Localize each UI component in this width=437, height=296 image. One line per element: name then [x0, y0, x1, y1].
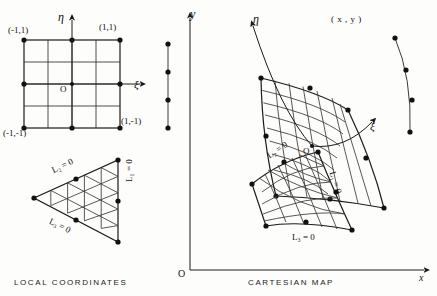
- label-origin-global: O: [178, 268, 185, 279]
- label-xi-local: ξ: [134, 78, 139, 90]
- label-y-axis: y: [190, 7, 195, 22]
- node: [165, 41, 170, 46]
- label-square-corner-bottom-left: (-1,-1): [3, 128, 26, 138]
- label-square-corner-top-right: (1,1): [99, 22, 116, 32]
- local-square-axes: [24, 20, 140, 128]
- origin-node: [70, 82, 74, 86]
- node: [249, 181, 254, 186]
- node: [303, 219, 308, 224]
- label-local-triangle-L1: L₁ = 0: [124, 159, 134, 182]
- label-origin-local-square: O: [60, 84, 67, 94]
- triangle-boundary: [34, 160, 118, 242]
- local-line-element: [165, 41, 170, 130]
- node: [258, 75, 263, 80]
- local-triangle-mesh: [34, 160, 118, 242]
- node: [407, 129, 412, 134]
- eta-axis-cartesian: [253, 26, 312, 146]
- node: [403, 67, 408, 72]
- label-square-corner-top-left: (-1,1): [8, 25, 28, 35]
- node: [31, 195, 36, 200]
- node: [21, 37, 26, 42]
- figure-canvas: (-1,1) (1,1) (-1,-1) (1,-1) η ξ O L₂ = 0…: [0, 0, 437, 296]
- label-xi-cartesian: ξ: [370, 120, 375, 132]
- node: [281, 159, 286, 164]
- caption-local-coordinates: LOCAL COORDINATES: [14, 278, 127, 287]
- node: [349, 227, 354, 232]
- node: [392, 35, 397, 40]
- figure-svg: [0, 0, 437, 296]
- label-eta-local: η: [58, 10, 64, 25]
- node: [263, 133, 268, 138]
- node: [165, 97, 170, 102]
- node: [327, 196, 332, 201]
- node: [73, 217, 78, 222]
- node: [263, 223, 268, 228]
- node: [115, 157, 120, 162]
- node: [73, 176, 78, 181]
- label-x-axis: x: [419, 272, 423, 283]
- node: [165, 69, 170, 74]
- node: [345, 107, 350, 112]
- cartesian-line-element: [392, 35, 414, 134]
- origin-node: [310, 144, 314, 148]
- node: [115, 198, 120, 203]
- label-point-xy: ( x , y ): [331, 14, 362, 24]
- node: [69, 37, 74, 42]
- node: [307, 85, 312, 90]
- node: [21, 81, 26, 86]
- label-eta-cartesian: η: [253, 12, 259, 27]
- node: [381, 205, 386, 210]
- node: [115, 239, 120, 244]
- node: [409, 97, 414, 102]
- label-cartesian-triangle-L3: L₃ = 0: [292, 232, 315, 242]
- cartesian-quad-axes: [253, 26, 372, 147]
- label-origin-cartesian-quad: O: [303, 146, 310, 156]
- node: [363, 155, 368, 160]
- node: [315, 149, 320, 154]
- node: [69, 125, 74, 130]
- node: [165, 125, 170, 130]
- node: [117, 125, 122, 130]
- node: [117, 37, 122, 42]
- node: [117, 81, 122, 86]
- label-square-corner-bottom-right: (1,-1): [121, 116, 141, 126]
- caption-cartesian-map: CARTESIAN MAP: [248, 278, 334, 287]
